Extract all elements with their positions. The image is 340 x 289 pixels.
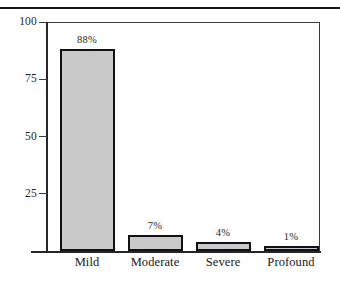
x-axis-category-label: Moderate — [120, 256, 191, 269]
bar — [60, 49, 115, 251]
header-cutoff-strip: · · — [0, 0, 340, 7]
y-axis-tick-label: 50 — [25, 131, 37, 143]
header-cutoff-text: · · — [6, 0, 14, 2]
bar — [264, 246, 319, 251]
y-axis-tick-label: 75 — [25, 73, 37, 85]
y-axis-tick — [39, 136, 47, 137]
bar-value-label: 7% — [128, 221, 183, 232]
y-axis-tick — [39, 22, 47, 23]
x-axis-category-label: Mild — [52, 256, 123, 269]
bar-chart-figure: 100755025 88%7%4%1% MildModerateSeverePr… — [0, 9, 340, 289]
bar-value-label: 1% — [264, 232, 319, 243]
bar-value-label: 88% — [60, 35, 115, 46]
x-axis-category-label: Profound — [256, 256, 327, 269]
bar — [196, 242, 251, 251]
x-axis-baseline — [31, 251, 321, 253]
y-axis-tick — [39, 193, 47, 194]
y-axis-tick-label: 25 — [25, 188, 37, 200]
y-axis-line — [46, 22, 48, 253]
y-axis-tick-label: 100 — [19, 16, 37, 28]
x-axis-category-label: Severe — [188, 256, 259, 269]
bar — [128, 235, 183, 251]
bar-value-label: 4% — [196, 228, 251, 239]
y-axis-tick — [39, 79, 47, 80]
